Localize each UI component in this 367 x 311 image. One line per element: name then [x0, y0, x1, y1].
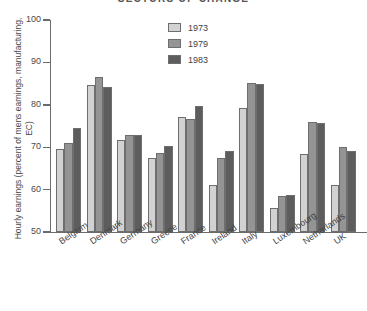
x-axis-label: UK [332, 231, 348, 246]
y-tick-mark [43, 231, 50, 232]
bar-group [239, 20, 264, 232]
bar[interactable] [195, 106, 203, 232]
bar-group [300, 20, 325, 232]
bar[interactable] [64, 143, 72, 232]
y-tick-label: 60 [16, 184, 41, 194]
y-tick-label: 80 [16, 99, 41, 109]
bar[interactable] [186, 119, 194, 232]
bar-group [331, 20, 356, 232]
bar[interactable] [156, 153, 164, 232]
bar[interactable] [73, 128, 81, 232]
bar-chart-figure: SECTORS OF CHANGE Hourly earnings (perce… [0, 0, 367, 311]
y-tick-label: 100 [16, 14, 41, 24]
legend-label: 1979 [188, 39, 208, 49]
bar[interactable] [95, 77, 103, 232]
bar[interactable] [164, 146, 172, 232]
bar[interactable] [134, 135, 142, 232]
legend-swatch-icon [168, 55, 181, 64]
legend-label: 1983 [188, 55, 208, 65]
bar-group [270, 20, 295, 232]
y-tick-mark [43, 147, 50, 148]
y-tick-mark [43, 19, 50, 20]
y-axis-title: Hourly earnings (percent of mens earning… [13, 14, 34, 244]
bar[interactable] [256, 84, 264, 232]
y-tick-mark [43, 104, 50, 105]
bar[interactable] [103, 87, 111, 232]
bar[interactable] [239, 108, 247, 232]
chart-title: SECTORS OF CHANGE [0, 0, 367, 4]
chart-legend: 1973 1979 1983 [168, 21, 208, 69]
bar[interactable] [347, 151, 355, 232]
bar-group [117, 20, 142, 232]
legend-item[interactable]: 1973 [168, 21, 208, 34]
y-tick-label: 90 [16, 56, 41, 66]
y-tick-label: 70 [16, 141, 41, 151]
bar[interactable] [217, 158, 225, 232]
y-tick-label: 50 [16, 226, 41, 236]
bar[interactable] [247, 83, 255, 232]
bar[interactable] [178, 117, 186, 232]
bar[interactable] [278, 196, 286, 232]
bar[interactable] [87, 85, 95, 232]
bar[interactable] [225, 151, 233, 232]
bar[interactable] [317, 123, 325, 232]
legend-item[interactable]: 1979 [168, 37, 208, 50]
bar-group [87, 20, 112, 232]
bar[interactable] [125, 135, 133, 232]
y-tick-mark [43, 62, 50, 63]
bar[interactable] [209, 185, 217, 232]
legend-label: 1973 [188, 23, 208, 33]
bar-group [56, 20, 81, 232]
legend-swatch-icon [168, 39, 181, 48]
bar-group [209, 20, 234, 232]
plot-area [50, 20, 367, 232]
bar[interactable] [56, 149, 64, 232]
legend-item[interactable]: 1983 [168, 53, 208, 66]
legend-swatch-icon [168, 23, 181, 32]
y-tick-mark [43, 189, 50, 190]
bar[interactable] [270, 208, 278, 232]
